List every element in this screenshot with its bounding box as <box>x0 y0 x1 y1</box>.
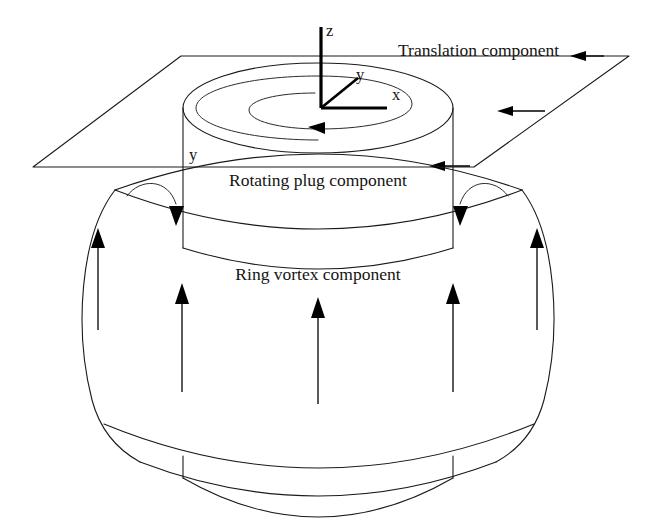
vortex-arrow-right <box>446 283 460 392</box>
axis-label-y: y <box>356 65 365 84</box>
vortex-arrow-left <box>175 283 189 392</box>
axis-label-z: z <box>326 21 333 40</box>
vortex-arrow-center <box>311 297 325 404</box>
label-rotating-plug-component: Rotating plug component <box>229 170 407 190</box>
axis-label-x: x <box>392 85 401 104</box>
torus-bottom-rim <box>104 424 534 468</box>
torus-outer-right <box>496 190 554 462</box>
label-translation-component: Translation component <box>398 40 559 60</box>
y-axis <box>321 78 358 108</box>
spiral-arrowhead <box>308 122 325 134</box>
diagram-canvas: z y x y Translation component Rotating p… <box>0 0 647 527</box>
vortex-arrow-outer-left <box>91 228 105 330</box>
plug-entrainment-arrow-left <box>127 183 184 226</box>
label-ring-vortex-component: Ring vortex component <box>235 264 400 284</box>
axis-label-y-secondary: y <box>189 145 198 164</box>
translation-arrow-top <box>570 51 604 61</box>
translation-arrow-middle <box>497 106 545 116</box>
vortex-arrow-outer-right <box>530 228 544 330</box>
stem-bottom-arc <box>183 478 453 517</box>
vortex-ring-figure: z y x y Translation component Rotating p… <box>0 0 647 527</box>
torus-bottom-outer <box>140 462 496 496</box>
rotating-plug-cylinder <box>183 63 453 269</box>
torus-outer-left <box>82 190 140 462</box>
translation-arrow-group <box>429 51 604 171</box>
